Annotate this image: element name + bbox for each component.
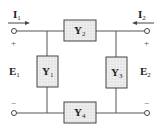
voltage-label-e1: E1 [9, 66, 20, 79]
admittance-label-y3: Y3 [111, 67, 122, 80]
voltage-label-e2: E2 [140, 66, 151, 79]
terminal-top-right [145, 29, 150, 34]
plus-sign-right: + [144, 39, 149, 48]
admittance-label-y4: Y4 [74, 107, 85, 120]
terminal-bottom-right [145, 111, 150, 116]
minus-sign-left: − [11, 99, 16, 108]
admittance-label-y2: Y2 [74, 25, 85, 38]
current-label-i1: I1 [13, 9, 21, 22]
admittance-label-y1: Y1 [42, 66, 53, 79]
terminal-top-left [12, 29, 17, 34]
minus-sign-right: − [144, 99, 149, 108]
terminal-bottom-left [12, 111, 17, 116]
plus-sign-left: + [11, 39, 16, 48]
current-label-i2: I2 [138, 9, 146, 22]
